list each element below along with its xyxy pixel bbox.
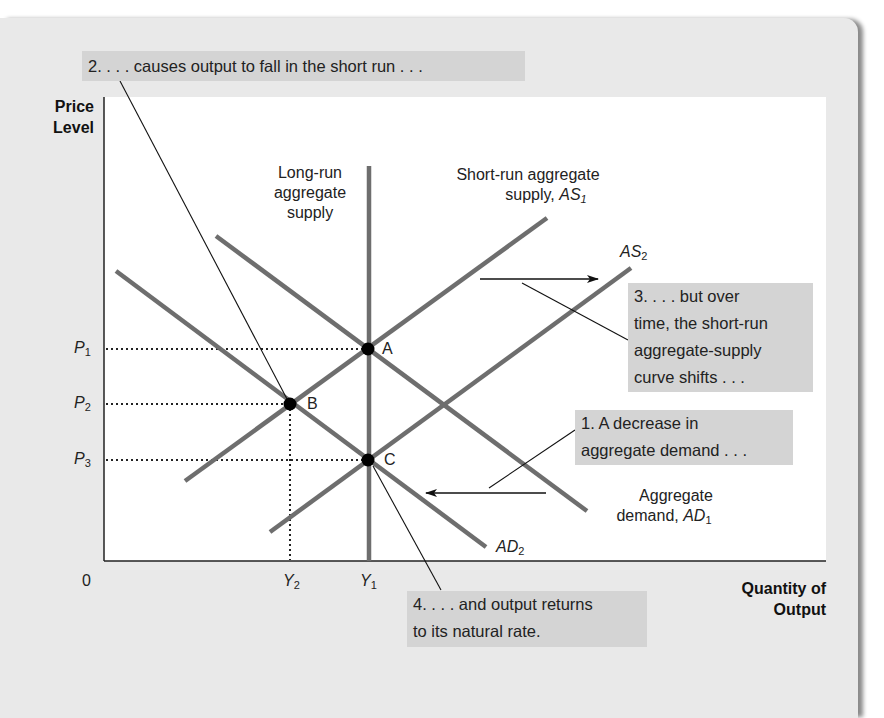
x-axis-title-line1: Quantity of bbox=[742, 578, 826, 599]
y-axis-title-line2: Level bbox=[53, 117, 94, 138]
annotation-step4-line2: to its natural rate. bbox=[413, 618, 641, 645]
pointer-step4 bbox=[373, 466, 441, 590]
y-axis-title: Price Level bbox=[53, 96, 94, 138]
tick-p2-base: P bbox=[74, 394, 85, 411]
as2-label-base: AS bbox=[620, 243, 641, 260]
ad2-curve bbox=[116, 271, 486, 547]
annotation-step4-line1: 4. . . . and output returns bbox=[413, 591, 641, 618]
tick-y1-sub: 1 bbox=[371, 579, 377, 591]
guide-lines bbox=[106, 349, 368, 560]
tick-p2: P2 bbox=[74, 393, 91, 413]
point-b-label: B bbox=[307, 394, 318, 414]
tick-p1-base: P bbox=[74, 339, 85, 356]
annotation-step3-line1: 3. . . . but over bbox=[634, 283, 807, 310]
point-a-marker bbox=[362, 343, 375, 356]
tick-p3-base: P bbox=[74, 450, 85, 467]
annotation-step4: 4. . . . and output returns to its natur… bbox=[407, 591, 647, 647]
annotation-step3: 3. . . . but over time, the short-run ag… bbox=[628, 283, 813, 392]
ad1-label-sub: 1 bbox=[705, 514, 711, 526]
as1-label-sub: 1 bbox=[581, 193, 587, 205]
annotation-step1-line1: 1. A decrease in bbox=[581, 410, 787, 437]
as1-label-line1: Short-run aggregate bbox=[448, 165, 608, 185]
ad1-label-prefix: demand, bbox=[616, 507, 683, 524]
x-axis-title-line2: Output bbox=[742, 599, 826, 620]
point-a-label: A bbox=[382, 339, 393, 359]
as1-label-base: AS bbox=[559, 186, 580, 203]
as1-label-prefix: supply, bbox=[505, 186, 559, 203]
tick-p3-sub: 3 bbox=[85, 457, 91, 469]
as2-label: AS2 bbox=[620, 242, 647, 262]
ad2-label: AD2 bbox=[496, 537, 524, 557]
ad2-label-sub: 2 bbox=[518, 545, 524, 557]
pointer-step3 bbox=[522, 283, 628, 340]
pointer-step1 bbox=[489, 430, 575, 488]
lras-label-line1: Long-run bbox=[262, 163, 358, 183]
annotation-step1: 1. A decrease in aggregate demand . . . bbox=[575, 410, 793, 465]
tick-y1: Y1 bbox=[360, 571, 377, 591]
lras-label: Long-run aggregate supply bbox=[262, 163, 358, 223]
tick-p1-sub: 1 bbox=[85, 346, 91, 358]
as2-label-sub: 2 bbox=[641, 250, 647, 262]
ad1-label-line2: demand, AD1 bbox=[596, 506, 732, 526]
pointer-step2 bbox=[120, 81, 287, 399]
annotation-step3-line4: curve shifts . . . bbox=[634, 364, 807, 391]
tick-y2-sub: 2 bbox=[294, 579, 300, 591]
lras-label-line3: supply bbox=[262, 203, 358, 223]
as1-label-line2: supply, AS1 bbox=[448, 185, 608, 205]
tick-p1: P1 bbox=[74, 338, 91, 358]
point-c-label: C bbox=[384, 450, 396, 470]
point-c-marker bbox=[362, 454, 375, 467]
ad1-label: Aggregate demand, AD1 bbox=[596, 486, 732, 526]
origin-label: 0 bbox=[82, 571, 91, 591]
lras-label-line2: aggregate bbox=[262, 183, 358, 203]
ad1-label-base: AD bbox=[683, 507, 705, 524]
tick-p2-sub: 2 bbox=[85, 401, 91, 413]
tick-y2: Y2 bbox=[283, 571, 300, 591]
point-b-marker bbox=[284, 398, 297, 411]
ad2-label-base: AD bbox=[496, 538, 518, 555]
tick-y2-base: Y bbox=[283, 572, 294, 589]
tick-p3: P3 bbox=[74, 449, 91, 469]
annotation-step2-line1: 2. . . . causes output to fall in the sh… bbox=[88, 51, 519, 81]
annotation-step3-line3: aggregate-supply bbox=[634, 337, 807, 364]
x-axis-title: Quantity of Output bbox=[742, 578, 826, 620]
annotation-step3-line2: time, the short-run bbox=[634, 310, 807, 337]
tick-y1-base: Y bbox=[360, 572, 371, 589]
annotation-step1-line2: aggregate demand . . . bbox=[581, 437, 787, 464]
annotation-step2: 2. . . . causes output to fall in the sh… bbox=[82, 51, 525, 81]
ad1-curve bbox=[216, 236, 587, 511]
ad1-label-line1: Aggregate bbox=[596, 486, 732, 506]
as1-label: Short-run aggregate supply, AS1 bbox=[448, 165, 608, 205]
y-axis-title-line1: Price bbox=[53, 96, 94, 117]
